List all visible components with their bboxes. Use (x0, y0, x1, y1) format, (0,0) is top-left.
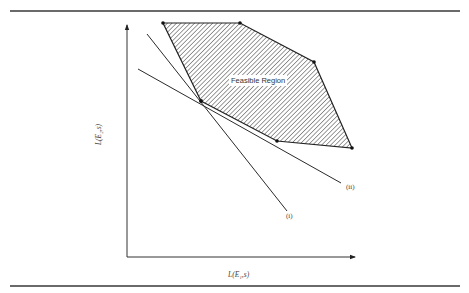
y-axis-label: L(E₂,s) (94, 124, 103, 145)
line-ii-label: (ii) (346, 183, 355, 191)
feasible-region-label: Feasible Region (229, 75, 287, 86)
x-axis-label: L(E₁,s) (228, 270, 249, 279)
feasible-region-diagram (0, 0, 469, 293)
line-i-label: (i) (286, 212, 293, 220)
